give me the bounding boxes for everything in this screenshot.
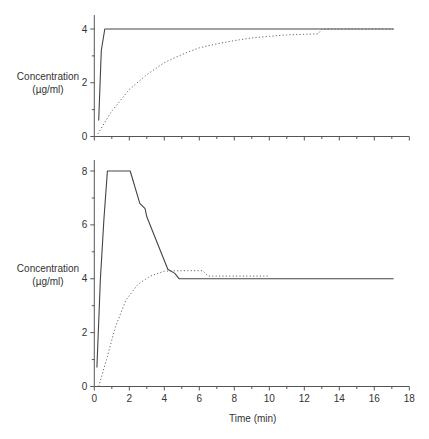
bottom-x-tick-label: 6 [197, 393, 203, 404]
top-series-solid [99, 29, 394, 120]
top-y-tick-label: 0 [82, 131, 88, 142]
bottom-y-axis-label: Concentration (µg/ml) [8, 262, 88, 288]
bottom-y-axis-label-line1: Concentration [8, 262, 88, 275]
top-y-tick-label: 4 [82, 24, 88, 35]
top-y-axis-label-line1: Concentration [8, 70, 88, 83]
top-series-dotted [98, 29, 394, 134]
bottom-x-tick-label: 2 [127, 393, 133, 404]
top-y-axis-label: Concentration (µg/ml) [8, 70, 88, 96]
bottom-series-solid [97, 171, 394, 368]
bottom-x-tick-label: 8 [232, 393, 238, 404]
bottom-x-tick-label: 14 [334, 393, 346, 404]
bottom-y-tick-label: 0 [82, 381, 88, 392]
bottom-y-tick-label: 2 [82, 327, 88, 338]
bottom-y-tick-label: 6 [82, 219, 88, 230]
chart-canvas: 02402468024681012141618 [0, 0, 429, 439]
bottom-x-tick-label: 10 [264, 393, 276, 404]
bottom-series-dotted [99, 271, 270, 387]
bottom-x-tick-label: 4 [162, 393, 168, 404]
x-axis-label: Time (min) [229, 413, 276, 424]
bottom-x-tick-label: 12 [299, 393, 311, 404]
bottom-x-tick-label: 0 [92, 393, 98, 404]
bottom-y-axis-label-line2: (µg/ml) [8, 275, 88, 288]
bottom-y-tick-label: 8 [82, 166, 88, 177]
top-y-axis-label-line2: (µg/ml) [8, 83, 88, 96]
bottom-x-tick-label: 18 [404, 393, 416, 404]
bottom-x-tick-label: 16 [369, 393, 381, 404]
